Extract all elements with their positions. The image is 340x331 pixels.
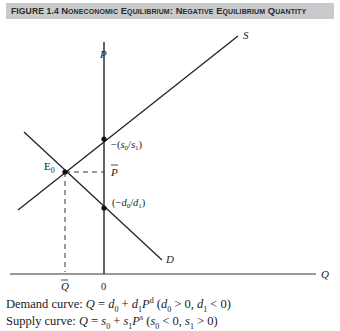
equilibrium-point (62, 169, 67, 174)
supply-intercept-point (101, 136, 106, 141)
demand-intercept-point (101, 205, 106, 210)
p-axis-label: P (99, 48, 107, 60)
demand-label: D (165, 253, 174, 265)
supply-curve-caption: Supply curve: Q = s0 + s1Ps (s0 < 0, s1 … (6, 313, 218, 331)
q-axis-label: Q (321, 268, 329, 280)
equilibrium-label: E0 (44, 160, 55, 175)
supply-intercept-label: −(s0/s1) (111, 139, 143, 152)
demand-curve-caption: Demand curve: Q = d0 + d1Pd (d0 > 0, d1 … (6, 296, 231, 314)
p-bar-label: P (110, 166, 118, 178)
supply-curve (18, 36, 238, 210)
demand-intercept-label: (−d0/d1) (112, 197, 146, 210)
supply-label: S (243, 29, 249, 41)
origin-label: 0 (101, 281, 106, 292)
q-bar-label: Q (61, 280, 69, 292)
